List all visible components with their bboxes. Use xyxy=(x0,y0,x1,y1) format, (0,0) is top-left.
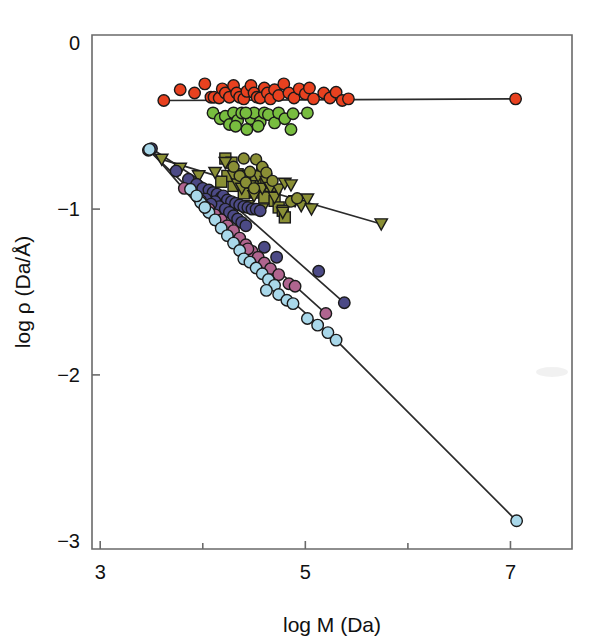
marker-circle xyxy=(240,107,252,119)
marker-circle xyxy=(304,82,316,94)
marker-circle xyxy=(511,515,523,527)
figure-container: 0−1−2−3357log M (Da)log ρ (Da/Å) xyxy=(0,0,598,642)
marker-circle xyxy=(158,95,170,107)
marker-circle xyxy=(302,313,314,325)
marker-circle xyxy=(308,93,320,105)
marker-circle xyxy=(244,166,255,177)
marker-circle xyxy=(313,266,325,278)
marker-circle xyxy=(261,285,273,297)
marker-circle xyxy=(230,120,242,132)
scatter-plot: 0−1−2−3357log M (Da)log ρ (Da/Å) xyxy=(0,0,598,642)
marker-square xyxy=(259,192,270,203)
marker-circle xyxy=(238,153,249,164)
x-tick-label: 5 xyxy=(300,561,311,583)
marker-circle xyxy=(241,124,253,136)
marker-circle xyxy=(240,220,252,232)
x-tick-label: 7 xyxy=(505,561,516,583)
x-axis-title: log M (Da) xyxy=(283,613,381,636)
marker-circle xyxy=(330,334,342,346)
y-tick-label: −1 xyxy=(57,198,80,220)
marker-circle xyxy=(174,84,186,96)
marker-square xyxy=(216,176,227,187)
marker-circle xyxy=(339,297,351,309)
y-axis-title: log ρ (Da/Å) xyxy=(11,236,34,348)
marker-circle xyxy=(170,165,182,177)
marker-circle xyxy=(191,190,203,202)
marker-circle xyxy=(287,298,299,310)
marker-circle xyxy=(287,108,299,120)
marker-circle xyxy=(343,93,355,105)
marker-circle xyxy=(267,175,278,186)
marker-circle xyxy=(312,319,324,331)
marker-circle xyxy=(199,202,211,214)
scan-artifact xyxy=(536,367,568,377)
marker-circle xyxy=(271,251,283,263)
marker-circle xyxy=(144,144,156,156)
marker-circle xyxy=(320,308,332,320)
marker-circle xyxy=(285,124,297,136)
y-tick-label: −2 xyxy=(57,364,80,386)
marker-circle xyxy=(302,107,314,119)
marker-circle xyxy=(252,120,264,132)
y-tick-label: 0 xyxy=(69,32,80,54)
y-tick-label: −3 xyxy=(57,530,80,552)
marker-circle xyxy=(189,87,201,99)
marker-circle xyxy=(510,93,522,105)
marker-circle xyxy=(199,78,211,90)
marker-circle xyxy=(254,205,266,217)
x-tick-label: 3 xyxy=(95,561,106,583)
marker-circle xyxy=(292,193,303,204)
marker-circle xyxy=(289,280,301,292)
marker-circle xyxy=(249,183,260,194)
